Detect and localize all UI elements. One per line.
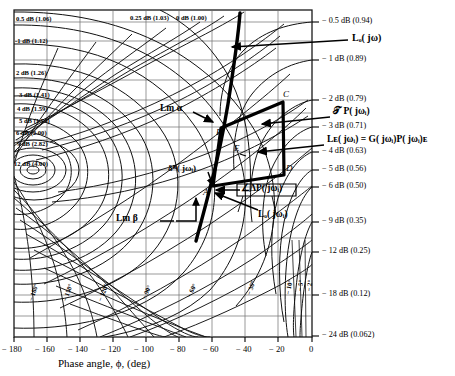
template-point-a: A: [203, 188, 209, 197]
m-label-left-6: 6 dB (2.00): [16, 130, 47, 137]
xtick-0: − 180: [2, 345, 22, 354]
m-label-right-2: − 2 dB (0.79): [322, 95, 366, 103]
m-label-left-3: 3 dB (1.41): [19, 92, 50, 99]
nichols-chart-figure: 0.5 dB (1.06) -1 dB (1.12) 2 dB (1.26) 3…: [0, 0, 455, 376]
delta-r-label: δᴿ( jωᵢ): [168, 164, 196, 173]
x-axis-title: Phase angle, ϕ, (deg): [58, 358, 150, 369]
angle-delta-p-label: ∠ΔP( jωᵢ): [241, 184, 282, 194]
m-label-right-8: − 12 dB (0.25): [322, 247, 370, 255]
m-label-right-6: − 6 dB (0.50): [322, 182, 366, 190]
xtick-2: − 140: [68, 345, 88, 354]
m-label-left-1: -1 dB (1.12): [15, 38, 48, 45]
lo-jwi-label: Lₒ( jωᵢ): [258, 210, 288, 220]
m-label-left-4: 4 dB (1.59): [17, 106, 48, 113]
phase-contour-label-8: − 2°: [306, 280, 314, 292]
lm-beta-label: Lm β: [116, 214, 138, 224]
xtick-5: − 80: [170, 345, 186, 354]
xtick-8: − 20: [269, 345, 285, 354]
m-label-right-5: − 5 dB (0.56): [322, 165, 366, 173]
m-label-right-7: − 9 dB (0.35): [322, 217, 366, 225]
xtick-7: − 40: [236, 345, 252, 354]
xtick-4: − 100: [134, 345, 154, 354]
xtick-6: − 60: [203, 345, 219, 354]
m-label-right-1: − 1 dB (0.89): [322, 55, 366, 63]
template-point-e: E: [234, 144, 240, 153]
template-point-b: B: [216, 128, 222, 137]
template-point-d: D: [286, 164, 293, 173]
m-label-left-0: 0.5 dB (1.06): [16, 16, 52, 23]
chart-canvas: [0, 0, 455, 376]
background: [0, 0, 455, 376]
m-label-right-10: − 24 dB (0.062): [322, 331, 374, 339]
m-label-left-2: 2 dB (1.26): [16, 70, 47, 77]
template-point-c: C: [283, 90, 289, 99]
m-label-right-9: − 18 dB (0.12): [322, 290, 370, 298]
m-label-right-0: − 0.5 dB (0.94): [322, 17, 372, 25]
m-label-top-0: 0.25 dB (1.03): [130, 15, 169, 22]
xtick-1: − 160: [35, 345, 55, 354]
lm-alpha-label: Lm α: [160, 104, 182, 114]
m-label-left-8: 12 dB (4.00): [14, 161, 48, 168]
m-label-right-3: − 3 dB (0.71): [322, 122, 366, 130]
m-label-left-7: 9 dB (2.82): [17, 141, 48, 148]
m-label-top-1: 0 dB (1.00): [176, 15, 207, 22]
le-jwi-label: Lᴇ( jωᵢ) = G( jωᵢ)P( jωᵢ)ᴇ: [327, 135, 427, 145]
lo-jw-label: Lₒ( jω): [352, 33, 381, 43]
phase-contour-label-7: − 5°: [297, 280, 305, 292]
xtick-9: 0: [309, 345, 313, 354]
m-label-right-4: − 4 dB (0.63): [322, 147, 366, 155]
xtick-3: − 120: [101, 345, 121, 354]
tp-jwi-label: 𝒯 P( jωᵢ): [333, 107, 370, 117]
m-label-left-5: 5 dB (1.73): [19, 118, 50, 125]
